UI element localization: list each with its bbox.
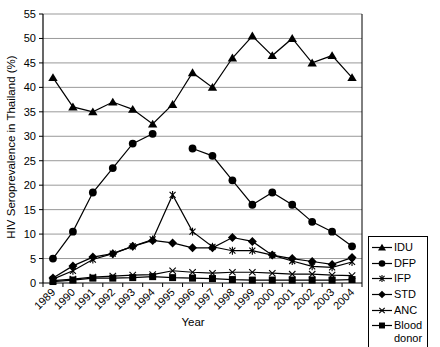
square-icon [249, 277, 256, 284]
asterisk-icon [170, 191, 176, 199]
circle-icon [109, 164, 117, 172]
triangle-icon [108, 98, 117, 106]
square-icon [289, 277, 296, 284]
square-icon [189, 275, 196, 282]
legend-marker-sample [372, 289, 392, 300]
legend-item-ifp: IFP [372, 272, 425, 285]
series-idu [48, 32, 356, 128]
legend-marker-sample [372, 305, 392, 316]
square-icon [269, 277, 276, 284]
triangle-icon [188, 68, 197, 76]
legend-marker-sample [372, 273, 392, 284]
legend-item-dfp: DFP [372, 257, 425, 270]
x-tick-label: 2002 [291, 286, 317, 312]
series-line [53, 195, 352, 279]
diamond-icon [248, 237, 257, 246]
y-tick-label: 15 [24, 204, 36, 216]
series-line [53, 36, 352, 124]
y-tick-label: 25 [24, 155, 36, 167]
y-tick-label: 30 [24, 130, 36, 142]
diamond-icon [108, 249, 117, 258]
circle-icon [288, 201, 296, 209]
x-tick-label: 1998 [211, 286, 237, 312]
circle-icon [268, 189, 276, 197]
diamond-icon [348, 253, 357, 262]
circle-icon [189, 145, 197, 153]
circle-icon [49, 255, 57, 263]
circle-icon [379, 260, 386, 267]
diamond-icon [148, 236, 157, 245]
x-tick-label: 1992 [91, 286, 117, 312]
diamond-icon [168, 238, 177, 247]
triangle-icon [168, 100, 177, 108]
x-tick-label: 1989 [32, 286, 58, 312]
square-icon [49, 278, 56, 285]
square-icon [89, 275, 96, 282]
series-line [53, 134, 153, 259]
square-icon [379, 323, 385, 329]
y-tick-label: 50 [24, 32, 36, 44]
legend-label: IDU [394, 241, 413, 254]
circle-icon [348, 242, 356, 250]
square-icon [129, 274, 136, 281]
square-icon [69, 277, 76, 284]
square-icon [149, 273, 156, 280]
square-icon [349, 276, 356, 283]
triangle-icon [248, 32, 257, 40]
circle-icon [308, 218, 316, 226]
x-axis-title: Year [43, 316, 343, 328]
x-tick-label: 2003 [311, 286, 337, 312]
x-tick-label: 2001 [271, 286, 297, 312]
legend-label: DFP [394, 257, 416, 270]
series-dfp [49, 130, 356, 263]
x-tick-label: 1990 [52, 286, 78, 312]
triangle-icon [327, 51, 336, 59]
asterisk-icon [190, 228, 196, 236]
y-axis-title: HIV Seroprevalence in Thailand (%) [5, 47, 17, 247]
circle-icon [149, 130, 157, 138]
y-tick-label: 55 [24, 8, 36, 20]
square-icon [109, 275, 116, 282]
legend-item-blood-donor: Blood donor [372, 319, 425, 344]
y-tick-label: 10 [24, 228, 36, 240]
x-tick-label: 1994 [131, 286, 157, 312]
circle-icon [229, 176, 237, 184]
square-icon [329, 277, 336, 284]
y-tick-label: 45 [24, 57, 36, 69]
series-line [193, 149, 353, 247]
diamond-icon [378, 291, 386, 299]
legend-label: Blood donor [394, 319, 425, 344]
hiv-seroprevalence-figure: HIV Seroprevalence in Thailand (%) 05101… [0, 0, 440, 347]
circle-icon [69, 228, 77, 236]
circle-icon [89, 189, 97, 197]
x-tick-label: 1999 [231, 286, 257, 312]
square-icon [209, 275, 216, 282]
legend-item-anc: ANC [372, 304, 425, 317]
y-tick-label: 20 [24, 179, 36, 191]
legend-item-std: STD [372, 288, 425, 301]
circle-icon [209, 152, 217, 160]
square-icon [229, 276, 236, 283]
y-tick-label: 0 [30, 277, 36, 289]
circle-icon [129, 140, 137, 148]
x-tick-label: 1991 [71, 286, 97, 312]
legend-marker-sample [372, 320, 392, 331]
diamond-icon [188, 243, 197, 252]
legend-label: STD [394, 288, 416, 301]
y-tick-label: 5 [30, 253, 36, 265]
legend-marker-sample [372, 242, 392, 253]
legend-label: ANC [394, 304, 417, 317]
x-tick-label: 1995 [151, 286, 177, 312]
circle-icon [328, 228, 336, 236]
x-tick-label: 2000 [251, 286, 277, 312]
y-tick-label: 35 [24, 106, 36, 118]
triangle-icon [128, 105, 137, 113]
legend-item-idu: IDU [372, 241, 425, 254]
square-icon [309, 277, 316, 284]
square-icon [169, 274, 176, 281]
diamond-icon [128, 242, 137, 251]
legend: IDUDFPIFPSTDANCBlood donor [368, 236, 428, 347]
triangle-icon [68, 103, 77, 111]
legend-label: IFP [394, 272, 411, 285]
circle-icon [248, 201, 256, 209]
